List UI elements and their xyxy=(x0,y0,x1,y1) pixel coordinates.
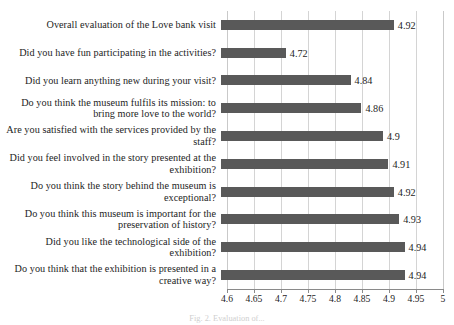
bar-value-label: 4.94 xyxy=(405,270,427,281)
chart-row: Did you feel involved in the story prese… xyxy=(0,150,454,178)
bar xyxy=(221,187,394,197)
bar-cell: 4.92 xyxy=(221,11,454,39)
category-label: Did you feel involved in the story prese… xyxy=(0,152,221,175)
bar-cell: 4.94 xyxy=(221,261,454,289)
bar xyxy=(221,214,399,224)
category-label: Did you have fun participating in the ac… xyxy=(0,47,221,59)
chart-row: Overall evaluation of the Love bank visi… xyxy=(0,11,454,39)
bar-value-label: 4.92 xyxy=(394,19,416,30)
bar xyxy=(221,270,405,280)
bar-value-label: 4.93 xyxy=(399,214,421,225)
category-label: Did you learn anything new during your v… xyxy=(0,75,221,87)
bar-value-label: 4.72 xyxy=(286,47,308,58)
category-label: Do you think the story behind the museum… xyxy=(0,180,221,203)
x-axis-tick-label: 4.65 xyxy=(246,293,263,304)
chart-row: Do you think this museum is important fo… xyxy=(0,206,454,234)
bar-value-label: 4.94 xyxy=(405,242,427,253)
category-label: Do you think this museum is important fo… xyxy=(0,208,221,231)
bar xyxy=(221,159,388,169)
bar-cell: 4.92 xyxy=(221,178,454,206)
chart-row: Did you have fun participating in the ac… xyxy=(0,39,454,67)
chart-row: Do you think that the exhibition is pres… xyxy=(0,261,454,289)
bar-cell: 4.93 xyxy=(221,206,454,234)
x-axis-tick-label: 4.6 xyxy=(221,293,233,304)
category-label: Do you think that the exhibition is pres… xyxy=(0,263,221,286)
bar-cell: 4.91 xyxy=(221,150,454,178)
bar xyxy=(221,20,394,30)
bar-value-label: 4.86 xyxy=(361,103,383,114)
x-axis-tick-label: 5 xyxy=(441,293,446,304)
category-label: Overall evaluation of the Love bank visi… xyxy=(0,19,221,31)
bar-cell: 4.84 xyxy=(221,67,454,95)
bar xyxy=(221,242,405,252)
bar-chart: Overall evaluation of the Love bank visi… xyxy=(0,0,454,325)
chart-row: Did you learn anything new during your v… xyxy=(0,67,454,95)
bar-cell: 4.94 xyxy=(221,233,454,261)
bar xyxy=(221,131,383,141)
x-axis-tick-label: 4.95 xyxy=(408,293,425,304)
bar-value-label: 4.92 xyxy=(394,186,416,197)
x-axis-tick-label: 4.8 xyxy=(329,293,341,304)
chart-rows: Overall evaluation of the Love bank visi… xyxy=(0,11,454,289)
bar-value-label: 4.84 xyxy=(351,75,373,86)
x-axis-tick-label: 4.9 xyxy=(383,293,395,304)
x-axis-tick-label: 4.85 xyxy=(354,293,371,304)
x-axis-tick-label: 4.7 xyxy=(275,293,287,304)
chart-row: Did you like the technological side of t… xyxy=(0,233,454,261)
x-axis-tick-label: 4.75 xyxy=(300,293,317,304)
bar-cell: 4.9 xyxy=(221,122,454,150)
bar-cell: 4.72 xyxy=(221,39,454,67)
category-label: Do you think the museum fulfils its miss… xyxy=(0,97,221,120)
category-label: Did you like the technological side of t… xyxy=(0,236,221,259)
chart-row: Do you think the museum fulfils its miss… xyxy=(0,94,454,122)
bar-cell: 4.86 xyxy=(221,94,454,122)
bar xyxy=(221,75,351,85)
bar-value-label: 4.9 xyxy=(383,131,400,142)
category-label: Are you satisfied with the services prov… xyxy=(0,124,221,147)
bar-value-label: 4.91 xyxy=(388,158,410,169)
figure-caption: Fig. 2. Evaluation of... xyxy=(0,314,454,325)
chart-row: Do you think the story behind the museum… xyxy=(0,178,454,206)
chart-row: Are you satisfied with the services prov… xyxy=(0,122,454,150)
bar xyxy=(221,103,361,113)
bar xyxy=(221,48,286,58)
